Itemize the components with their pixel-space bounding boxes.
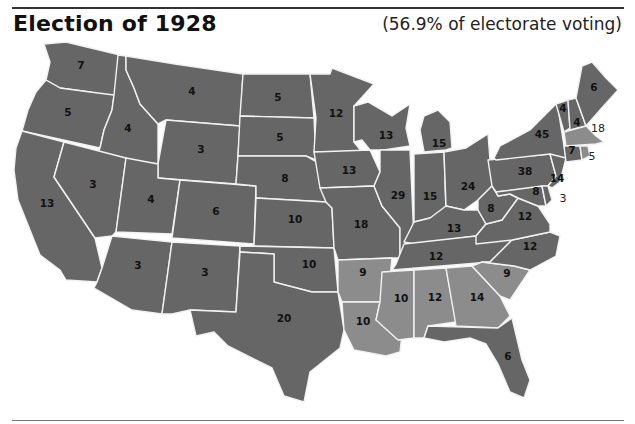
ev-label-oregon: 5 — [64, 106, 71, 118]
ev-label-nebraska: 8 — [281, 172, 288, 184]
ev-label-colorado: 6 — [212, 205, 219, 217]
ev-label-ohio: 24 — [461, 180, 476, 192]
ev-label-michigan: 15 — [432, 137, 447, 149]
ev-label-south-dakota: 5 — [276, 131, 283, 143]
us-election-map: 7 5 13 4 3 4 3 4 3 6 3 5 5 8 10 10 20 12… — [0, 0, 635, 424]
state-florida — [424, 318, 530, 398]
ev-label-washington: 7 — [77, 59, 84, 71]
ev-label-north-dakota: 5 — [274, 91, 281, 103]
ev-label-alabama: 12 — [428, 291, 443, 303]
bottom-rule — [12, 420, 624, 421]
ev-label-new-hampshire: 4 — [573, 116, 580, 128]
ev-label-new-mexico: 3 — [201, 266, 208, 278]
ev-label-delaware: 3 — [560, 192, 567, 205]
ev-label-vermont: 4 — [559, 102, 566, 114]
ev-label-pennsylvania: 38 — [518, 165, 533, 177]
ev-label-south-carolina: 9 — [503, 267, 510, 279]
ev-label-new-york: 45 — [535, 128, 550, 140]
ev-label-arizona: 3 — [134, 259, 141, 271]
ev-label-wisconsin: 13 — [379, 129, 394, 141]
state-new-mexico — [162, 242, 240, 314]
ev-label-california: 13 — [40, 197, 55, 209]
ev-label-kansas: 10 — [288, 213, 303, 225]
ev-label-nevada: 3 — [89, 178, 96, 190]
ev-label-texas: 20 — [277, 312, 292, 324]
ev-label-missouri: 18 — [354, 218, 369, 230]
ev-label-georgia: 14 — [470, 291, 485, 303]
ev-label-connecticut: 7 — [568, 144, 575, 156]
ev-label-louisiana: 10 — [356, 315, 371, 327]
ev-label-tennessee: 12 — [429, 250, 444, 262]
ev-label-virginia: 12 — [518, 210, 533, 222]
ev-label-west-virginia: 8 — [487, 202, 494, 214]
ev-label-montana: 4 — [188, 85, 195, 97]
ev-label-indiana: 15 — [423, 190, 438, 202]
ev-label-north-carolina: 12 — [523, 240, 538, 252]
state-maine — [576, 62, 618, 126]
ev-label-florida: 6 — [504, 350, 511, 362]
ev-label-utah: 4 — [147, 193, 154, 205]
state-wisconsin — [354, 102, 410, 150]
ev-label-arkansas: 9 — [359, 266, 366, 278]
ev-label-iowa: 13 — [342, 164, 357, 176]
ev-label-minnesota: 12 — [329, 107, 344, 119]
ev-label-oklahoma: 10 — [302, 258, 317, 270]
ev-label-wyoming: 3 — [197, 143, 204, 155]
ev-label-mississippi: 10 — [394, 292, 409, 304]
ev-label-rhode-island: 5 — [589, 150, 596, 163]
ev-label-new-jersey: 14 — [550, 172, 565, 184]
ev-label-idaho: 4 — [124, 122, 131, 134]
ev-label-illinois: 29 — [391, 189, 406, 201]
state-arizona — [94, 236, 172, 314]
ev-label-massachusetts: 18 — [591, 122, 605, 135]
ev-label-kentucky: 13 — [447, 222, 462, 234]
ev-label-maine: 6 — [590, 81, 597, 93]
ev-label-maryland: 8 — [532, 185, 539, 197]
